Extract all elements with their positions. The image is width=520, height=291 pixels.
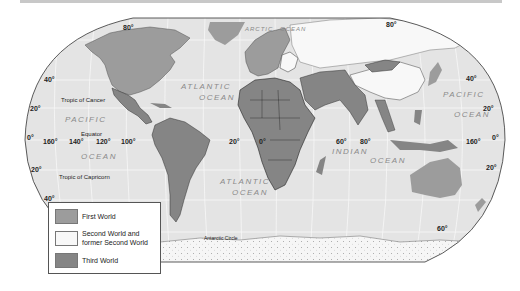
third-world-swatch xyxy=(55,253,78,268)
equator-label: Equator xyxy=(81,131,102,137)
pacific-west-label-1: PACIFIC xyxy=(65,115,106,124)
legend-label-second-world: Second World and former Second World xyxy=(82,229,148,247)
lon-160e: 160° xyxy=(466,138,480,145)
atlantic-south-label-2: OCEAN xyxy=(232,188,268,197)
indian-ocean-label-1: INDIAN xyxy=(332,147,368,156)
second-world-swatch xyxy=(55,231,78,246)
indian-ocean-label-2: OCEAN xyxy=(370,156,406,165)
tropic-of-capricorn-label: Tropic of Capricorn xyxy=(59,174,110,180)
atlantic-north-label-2: OCEAN xyxy=(199,93,235,102)
lon-80e: 80° xyxy=(360,138,371,145)
atlantic-north-label-1: ATLANTIC xyxy=(181,82,231,91)
lat-80n-right: 80° xyxy=(386,21,397,28)
lat-40n-left: 40° xyxy=(44,76,55,83)
first-world-swatch xyxy=(55,209,78,224)
lat-0-left: 0° xyxy=(27,134,34,141)
legend-item-second-world: Second World and former Second World xyxy=(55,229,148,247)
lon-120w: 120° xyxy=(96,138,110,145)
legend-label-second-world-line1: Second World and xyxy=(82,230,139,237)
pacific-east-label-1: PACIFIC xyxy=(443,90,484,99)
pacific-west-label-2: OCEAN xyxy=(81,152,117,161)
arctic-ocean-label-1: ARCTIC xyxy=(245,26,273,32)
lat-40n-right: 40° xyxy=(466,75,477,82)
pacific-east-label-2: OCEAN xyxy=(454,110,490,119)
lon-100w: 100° xyxy=(121,138,135,145)
antarctic-circle-label: Antarctic Circle xyxy=(204,235,238,241)
arctic-ocean-label-2: OCEAN xyxy=(280,26,306,32)
lat-60s-right: 60° xyxy=(437,225,448,232)
atlantic-south-label-1: ATLANTIC xyxy=(220,177,270,186)
legend-label-third-world: Third World xyxy=(82,256,118,265)
legend-item-third-world: Third World xyxy=(55,253,118,268)
lat-20s-left: 20° xyxy=(31,166,42,173)
legend-label-first-world: First World xyxy=(82,212,116,221)
lon-20w: 20° xyxy=(229,138,240,145)
legend-item-first-world: First World xyxy=(55,209,116,224)
lon-160w: 160° xyxy=(43,138,57,145)
lon-140w: 140° xyxy=(69,138,83,145)
lon-0: 0° xyxy=(259,138,266,145)
lat-80n-left: 80° xyxy=(123,24,134,31)
tropic-of-cancer-label: Tropic of Cancer xyxy=(61,97,105,103)
lon-60e: 60° xyxy=(336,138,347,145)
lat-20s-right: 20° xyxy=(486,164,497,171)
lat-20n-left: 20° xyxy=(30,105,41,112)
map-legend: First World Second World and former Seco… xyxy=(48,202,161,274)
lat-40s-left: 40° xyxy=(44,195,55,202)
lat-0-right: 0° xyxy=(492,134,499,141)
legend-label-second-world-line2: former Second World xyxy=(82,239,148,246)
